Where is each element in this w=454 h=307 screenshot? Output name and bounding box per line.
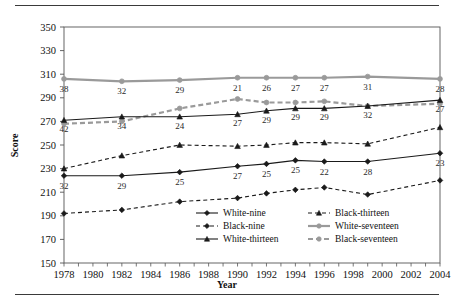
data-point-marker <box>119 207 125 213</box>
data-point-marker <box>235 75 240 80</box>
data-point-marker <box>264 161 270 167</box>
data-point-marker <box>177 169 183 175</box>
x-axis-tick-label: 1996 <box>314 269 335 280</box>
data-point-marker <box>365 74 370 79</box>
legend-marker <box>317 237 321 241</box>
data-value-label: 27 <box>291 83 301 93</box>
data-value-label: 25 <box>291 165 301 175</box>
data-point-marker <box>437 150 443 156</box>
data-point-marker <box>235 195 241 201</box>
data-point-marker <box>438 77 443 82</box>
data-value-label: 27 <box>233 118 243 128</box>
y-axis-tick-label: 150 <box>40 258 56 269</box>
data-point-marker <box>177 78 182 83</box>
x-axis-tick-label: 1980 <box>82 269 103 280</box>
data-point-marker <box>119 79 124 84</box>
x-axis-tick-label: 1978 <box>54 269 75 280</box>
chart-legend: White-nineBlack-nineWhite-thirteenBlack-… <box>196 208 399 244</box>
y-axis-tick-label: 350 <box>40 22 56 33</box>
x-axis-tick-label: 1992 <box>256 269 277 280</box>
data-value-label: 28 <box>363 167 373 177</box>
data-point-marker <box>437 125 443 130</box>
data-point-marker <box>437 178 443 184</box>
data-point-marker <box>293 158 299 164</box>
y-axis-tick-label: 290 <box>40 92 56 103</box>
y-axis-tick-label: 250 <box>40 140 56 151</box>
data-value-label: 26 <box>262 83 272 93</box>
x-axis-tick-label: 1998 <box>343 269 364 280</box>
legend-marker <box>204 223 209 228</box>
data-point-marker <box>322 99 327 104</box>
legend-label: Black-thirteen <box>335 208 390 218</box>
data-value-label: 38 <box>60 84 70 94</box>
data-value-label: 42 <box>60 124 69 134</box>
data-value-label: 29 <box>117 181 127 191</box>
x-axis-tick-label: 2000 <box>372 269 393 280</box>
data-point-marker <box>235 97 240 102</box>
chart-series-black-thirteen <box>61 125 443 171</box>
data-point-marker <box>322 159 328 165</box>
data-point-marker <box>322 75 327 80</box>
data-value-label: 29 <box>262 115 272 125</box>
y-axis-title: Score <box>9 116 20 176</box>
data-value-label: 29 <box>175 85 185 95</box>
data-value-label: 24 <box>175 121 185 131</box>
data-value-label: 27 <box>233 171 243 181</box>
y-axis-tick-label: 210 <box>40 187 56 198</box>
chart-plot-area: 1501701902102302502702903103303501978198… <box>0 0 454 307</box>
data-value-label: 23 <box>436 158 446 168</box>
data-value-label: 28 <box>436 84 446 94</box>
data-point-marker <box>177 106 182 111</box>
legend-label: Black-nine <box>223 221 265 231</box>
data-point-marker <box>293 187 299 193</box>
legend-marker <box>317 224 321 228</box>
data-point-marker <box>322 185 328 191</box>
chart-series-white-nine <box>61 150 443 178</box>
data-point-marker <box>365 159 371 165</box>
x-axis-tick-label: 1982 <box>111 269 132 280</box>
legend-label: White-thirteen <box>223 234 279 244</box>
data-value-label: 29 <box>320 112 330 122</box>
data-point-marker <box>119 173 125 179</box>
data-point-marker <box>119 153 125 158</box>
data-point-marker <box>235 163 241 169</box>
x-axis-tick-label: 1994 <box>285 269 307 280</box>
x-axis-title: Year <box>197 279 257 290</box>
data-point-marker <box>365 192 371 198</box>
data-value-label: 27 <box>436 104 446 114</box>
data-point-marker <box>264 191 270 197</box>
chart-series-white-seventeen <box>62 74 443 84</box>
x-axis-tick-label: 1986 <box>169 269 190 280</box>
x-axis-tick-label: 2002 <box>401 269 422 280</box>
data-value-label: 32 <box>60 181 69 191</box>
data-point-marker <box>293 100 298 105</box>
line-chart-figure: 1501701902102302502702903103303501978198… <box>0 0 454 307</box>
legend-label: White-seventeen <box>335 221 399 231</box>
x-axis-tick-label: 1984 <box>140 269 162 280</box>
y-axis-tick-label: 190 <box>40 210 56 221</box>
y-axis-tick-label: 170 <box>40 234 56 245</box>
series-line <box>64 127 440 168</box>
data-value-label: 32 <box>363 110 372 120</box>
data-point-marker <box>62 77 67 82</box>
legend-label: Black-seventeen <box>335 234 398 244</box>
data-value-label: 31 <box>363 82 372 92</box>
y-axis-tick-label: 230 <box>40 163 56 174</box>
data-point-marker <box>264 100 269 105</box>
y-axis-tick-label: 270 <box>40 116 56 127</box>
data-value-label: 22 <box>320 167 329 177</box>
data-point-marker <box>177 199 183 205</box>
chart-series-white-thirteen <box>61 97 443 122</box>
data-value-label: 25 <box>175 177 185 187</box>
legend-marker <box>204 210 209 215</box>
data-value-label: 34 <box>117 121 127 131</box>
data-value-label: 21 <box>233 83 242 93</box>
x-axis-tick-label: 2004 <box>430 269 452 280</box>
data-value-label: 25 <box>262 169 272 179</box>
data-point-marker <box>264 75 269 80</box>
data-point-marker <box>293 75 298 80</box>
data-point-marker <box>61 173 67 179</box>
y-axis-tick-label: 310 <box>40 69 56 80</box>
legend-label: White-nine <box>223 208 266 218</box>
data-value-label: 29 <box>291 112 301 122</box>
